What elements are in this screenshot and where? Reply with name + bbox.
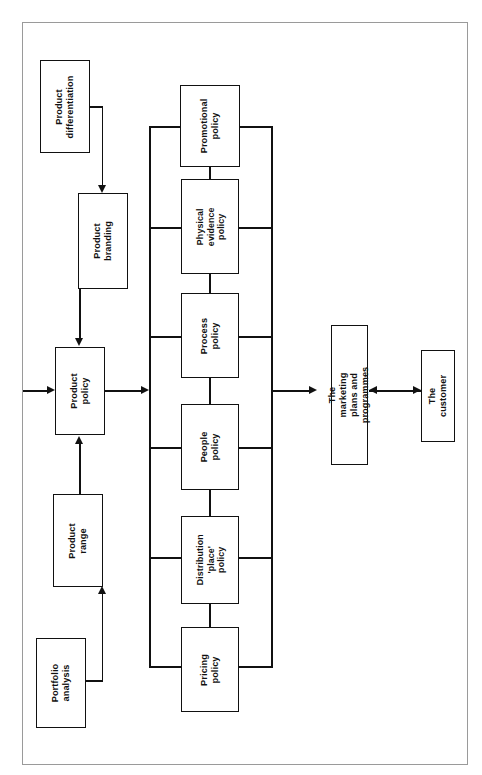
edge-external-input-arrowhead [47, 386, 55, 394]
mix-rung-pricing-right [238, 666, 273, 668]
node-distribution-policy[interactable]: Distribution 'place' policy [181, 516, 239, 604]
node-product-policy-label: Product policy [69, 373, 91, 408]
node-marketing-plans[interactable]: The marketing plans and programmes [331, 325, 368, 465]
node-marketing-plans-label: The marketing plans and programmes [328, 367, 372, 424]
diagram-page: Product differentiation Product branding… [0, 0, 482, 775]
edge-brand-to-policy-arrowhead [75, 338, 83, 346]
node-product-differentiation[interactable]: Product differentiation [40, 60, 90, 153]
node-process-policy-label: Process policy [199, 317, 221, 353]
node-product-range-label: Product range [67, 523, 89, 558]
node-pricing-policy[interactable]: Pricing policy [181, 627, 239, 712]
mix-rung-physical-evidence-left [149, 227, 182, 229]
edge-bus-to-plans-arrowhead [309, 386, 317, 394]
node-product-range[interactable]: Product range [53, 494, 103, 587]
mix-rung-promotional-right [239, 126, 273, 128]
edge-plans-to-customer-arrowhead-right [413, 386, 421, 394]
edge-policy-to-bus-arrowhead [141, 386, 149, 394]
node-product-policy[interactable]: Product policy [55, 347, 105, 435]
node-portfolio-analysis[interactable]: Portfolio analysis [36, 638, 86, 728]
edge-external-input-line [23, 390, 49, 392]
node-physical-evidence-policy-label: Physical evidence policy [194, 207, 226, 246]
edge-range-to-policy-arrowhead [75, 436, 83, 444]
edge-brand-to-policy-line [79, 289, 81, 341]
node-pricing-policy-label: Pricing policy [199, 654, 221, 686]
node-portfolio-analysis-label: Portfolio analysis [50, 664, 72, 703]
edge-diff-to-brand-seg2 [102, 106, 104, 188]
node-physical-evidence-policy[interactable]: Physical evidence policy [181, 179, 239, 274]
mix-rung-process-left [149, 336, 182, 338]
mix-rung-promotional-left [149, 126, 181, 128]
mix-rung-pricing-left [149, 666, 182, 668]
edge-range-to-policy-line [79, 443, 81, 494]
node-customer-label: The customer [427, 375, 449, 417]
mix-rung-distribution-left [149, 557, 182, 559]
node-promotional-policy-label: Promotional policy [199, 99, 221, 154]
edge-portfolio-to-range-seg2 [102, 594, 104, 681]
mix-rung-physical-evidence-right [238, 227, 273, 229]
node-customer[interactable]: The customer [421, 350, 455, 442]
mix-bus-left-rail [149, 126, 151, 668]
node-promotional-policy[interactable]: Promotional policy [180, 85, 240, 167]
mix-rung-people-left [149, 447, 182, 449]
node-product-differentiation-label: Product differentiation [54, 75, 76, 138]
node-product-branding[interactable]: Product branding [78, 193, 128, 289]
edge-portfolio-to-range-seg1 [85, 680, 103, 682]
node-distribution-policy-label: Distribution 'place' policy [194, 535, 226, 586]
edge-diff-to-brand-arrowhead [98, 185, 106, 193]
edge-bus-to-plans-line [272, 390, 310, 392]
node-people-policy-label: People policy [199, 432, 221, 463]
edge-policy-to-bus-line [104, 390, 142, 392]
mix-rung-people-right [238, 447, 273, 449]
node-process-policy[interactable]: Process policy [181, 293, 239, 378]
node-people-policy[interactable]: People policy [181, 404, 239, 490]
mix-bus-right-rail [271, 126, 273, 668]
node-product-branding-label: Product branding [92, 221, 114, 261]
mix-rung-process-right [238, 336, 273, 338]
mix-rung-distribution-right [238, 557, 273, 559]
edge-portfolio-to-range-arrowhead [98, 586, 106, 594]
